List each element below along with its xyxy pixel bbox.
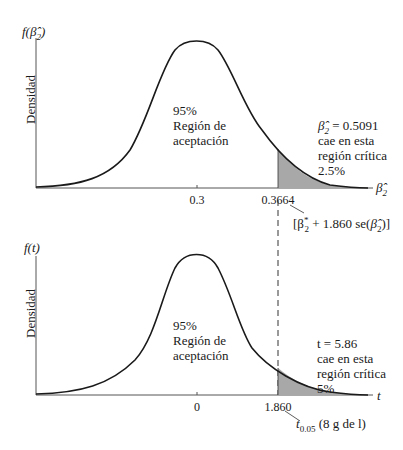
bottom-tick-label-center: 0 xyxy=(194,400,200,415)
bottom-annotation-line3: región crítica xyxy=(317,366,386,381)
bottom-density-label: Densidad xyxy=(23,289,39,338)
top-annotation-line3: región crítica xyxy=(318,148,387,163)
top-tick-label-critical: 0.3664 xyxy=(262,193,295,208)
bottom-x-axis-label: t xyxy=(377,388,381,403)
top-x-axis-label: β̂2 xyxy=(376,180,387,201)
bottom-acceptance-label-1: Región de xyxy=(173,333,226,348)
bottom-tick-label-critical: 1.860 xyxy=(265,400,292,415)
bottom-critical-value-label: t0.05 (8 g de l) xyxy=(296,416,366,437)
bottom-acceptance-label-2: aceptación xyxy=(173,348,229,363)
bottom-annotation-value: t = 5.86 xyxy=(317,336,357,351)
top-tick-label-center: 0.3 xyxy=(190,193,205,208)
top-acceptance-pct: 95% xyxy=(173,103,197,118)
bottom-annotation-pct: 5% xyxy=(317,381,334,396)
top-annotation-pct: 2.5% xyxy=(318,163,345,178)
top-critical-formula: [β*2 + 1.860 se(β̂2)] xyxy=(293,213,390,237)
top-annotation-line2: cae en esta xyxy=(318,133,374,148)
top-acceptance-label-1: Región de xyxy=(173,118,226,133)
bottom-annotation-line2: cae en esta xyxy=(317,351,373,366)
bottom-acceptance-pct: 95% xyxy=(173,318,197,333)
top-density-label: Densidad xyxy=(23,75,39,124)
bottom-y-axis-title: f(t) xyxy=(24,240,40,255)
top-acceptance-label-2: aceptación xyxy=(173,133,229,148)
top-y-axis-title: f(β̂2) xyxy=(22,24,45,45)
